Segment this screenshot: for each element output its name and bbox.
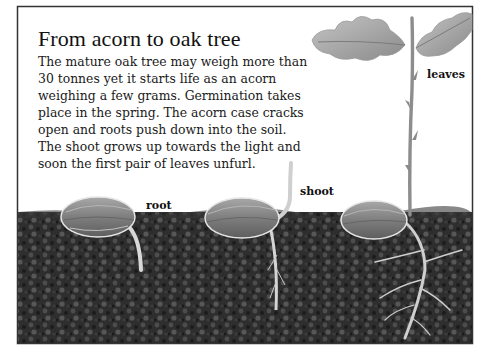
page-title: From acorn to oak tree (38, 26, 241, 52)
label-shoot: shoot (300, 185, 334, 198)
body-text: The mature oak tree may weigh more than … (38, 53, 313, 172)
label-root: root (146, 199, 172, 212)
label-leaves: leaves (427, 68, 465, 81)
